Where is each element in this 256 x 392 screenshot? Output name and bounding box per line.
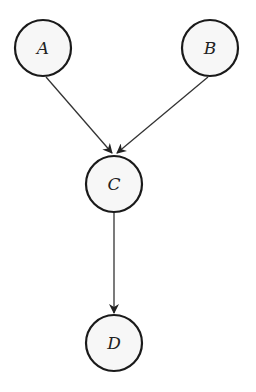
node-c: C bbox=[86, 156, 142, 212]
edge-a-to-c bbox=[46, 77, 112, 153]
node-b: B bbox=[182, 20, 238, 76]
dag-diagram: A B C D bbox=[0, 0, 256, 392]
node-c-label: C bbox=[107, 174, 120, 194]
edge-b-to-c bbox=[117, 77, 208, 153]
node-d: D bbox=[86, 315, 142, 371]
node-a-label: A bbox=[35, 38, 49, 58]
node-d-label: D bbox=[106, 333, 121, 353]
node-a: A bbox=[15, 20, 71, 76]
node-b-label: B bbox=[203, 38, 217, 58]
